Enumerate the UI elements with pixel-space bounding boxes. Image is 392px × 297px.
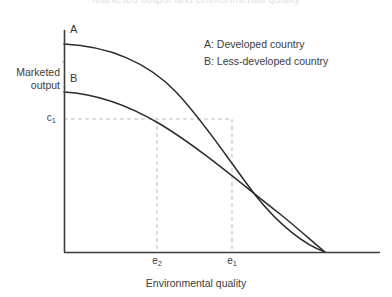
- page-speck-artifact: [62, 61, 64, 63]
- plot-area: [0, 0, 392, 297]
- y-tick-c1-subscript: 1: [52, 116, 56, 125]
- x-axis-title: Environmental quality: [0, 277, 392, 290]
- y-tick-label-c1: c1: [28, 112, 56, 125]
- chart-figure: Marketed output and environmental qualit…: [0, 0, 392, 297]
- legend-entry-b: B: Less-developed country: [204, 55, 328, 68]
- y-axis-title-line-1: Marketed: [2, 66, 60, 79]
- y-axis-title-line-2: output: [2, 79, 60, 92]
- curve-b-label: B: [70, 72, 77, 86]
- x-tick-e1-base: e: [227, 255, 233, 266]
- x-tick-e2-base: e: [152, 255, 158, 266]
- legend-entry-a: A: Developed country: [204, 38, 328, 51]
- x-tick-e1-subscript: 1: [233, 259, 237, 268]
- x-tick-e2-subscript: 2: [158, 259, 162, 268]
- curve-a-label: A: [70, 23, 77, 37]
- x-tick-label-e2: e2: [143, 255, 171, 268]
- y-axis-title: Marketed output: [2, 66, 60, 92]
- legend: A: Developed country B: Less-developed c…: [204, 38, 328, 72]
- x-tick-label-e1: e1: [218, 255, 246, 268]
